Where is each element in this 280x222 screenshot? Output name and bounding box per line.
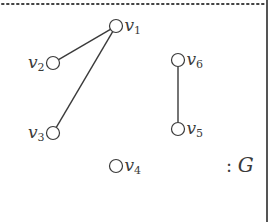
- vertex-label-v1: v1: [125, 15, 142, 37]
- caption-colon: :: [226, 155, 238, 176]
- vertex-v2: v2: [28, 52, 60, 74]
- vertex-label-v3: v3: [28, 122, 45, 144]
- vertex-circle-icon: [47, 127, 60, 140]
- vertex-v5: v5: [172, 118, 204, 140]
- vertex-label-v2: v2: [28, 52, 45, 74]
- caption-graph-name: G: [238, 153, 254, 177]
- edge-v1-v3: [56, 32, 112, 128]
- graph-canvas: v1v2v3v4v5v6 : G: [0, 0, 280, 222]
- graph-caption: : G: [226, 153, 254, 177]
- vertex-v4: v4: [110, 155, 142, 177]
- vertex-circle-icon: [110, 20, 123, 33]
- vertex-circle-icon: [172, 54, 185, 67]
- vertex-circle-icon: [47, 57, 60, 70]
- graph-diagram: v1v2v3v4v5v6 : G: [0, 0, 280, 222]
- vertex-v6: v6: [172, 49, 204, 71]
- vertex-circle-icon: [172, 123, 185, 136]
- vertex-label-v6: v6: [187, 49, 204, 71]
- edges-group: [56, 29, 178, 127]
- vertex-circle-icon: [110, 160, 123, 173]
- vertex-label-v5: v5: [187, 118, 204, 140]
- vertex-label-v4: v4: [125, 155, 142, 177]
- vertices-group: v1v2v3v4v5v6: [28, 15, 203, 177]
- edge-v1-v2: [59, 29, 111, 59]
- vertex-v3: v3: [28, 122, 60, 144]
- vertex-v1: v1: [110, 15, 142, 37]
